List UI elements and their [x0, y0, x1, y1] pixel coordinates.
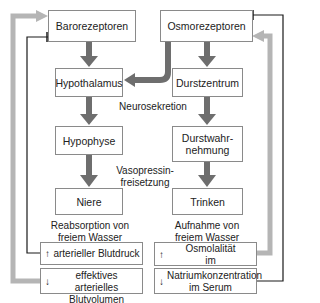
outcome-label: Natriumkonzentrationim Serum	[167, 270, 254, 294]
outcome-blutdruck: ↑ arterieller Blutdruck	[40, 242, 143, 265]
outcome-osmolalitaet: ↑ Osmolalitätim Extrazellularraum	[154, 242, 257, 266]
label-line: freisetzung	[100, 177, 190, 189]
node-barorezeptoren: Barorezeptoren	[48, 10, 136, 42]
label-line: Reabsorption von	[40, 220, 140, 232]
node-trinken: Trinken	[172, 188, 243, 215]
node-label: nehmung	[186, 144, 230, 156]
outcome-label: effektives arteriellesBlutvolumen	[53, 270, 140, 303]
node-label: Trinken	[190, 196, 225, 208]
label-reabsorption: Reabsorption vonfreiem Wasser	[40, 220, 140, 244]
node-label: Barorezeptoren	[56, 20, 128, 32]
outcome-blutvolumen: ↓ effektives arteriellesBlutvolumen	[40, 268, 143, 294]
node-durstwahrnehmung: Durstwahr-nehmung	[172, 126, 243, 162]
node-label: Hypothalamus	[55, 77, 122, 89]
node-durstzentrum: Durstzentrum	[172, 68, 243, 97]
label-neurosekretion: Neurosekretion	[108, 101, 198, 113]
node-label: Durstzentrum	[176, 77, 239, 89]
arrow-down-icon: ↓	[45, 276, 50, 288]
label-line: Aufnahme von	[157, 220, 257, 232]
node-label: Osmorezeptoren	[167, 20, 245, 32]
osmolality-feedback-arrow	[256, 36, 270, 253]
node-label: Niere	[76, 196, 101, 208]
node-hypothalamus: Hypothalamus	[55, 68, 123, 97]
label-vasopressin: Vasopressin-freisetzung	[100, 165, 190, 189]
outcome-label: arterieller Blutdruck	[53, 248, 140, 260]
arrow-up-icon: ↑	[159, 249, 164, 261]
node-niere: Niere	[55, 188, 123, 215]
node-hypophyse: Hypophyse	[55, 126, 123, 155]
node-label: Durstwahr-	[182, 132, 233, 144]
node-osmorezeptoren: Osmorezeptoren	[160, 10, 253, 42]
arrow-up-icon: ↑	[45, 248, 50, 260]
neurosekretion-arrow	[134, 42, 168, 80]
label-line: Vasopressin-	[100, 165, 190, 177]
outcome-natrium: ↓ Natriumkonzentrationim Serum	[154, 268, 257, 294]
arrow-down-icon: ↓	[159, 276, 164, 288]
node-label: Hypophyse	[63, 135, 116, 147]
label-aufnahme: Aufnahme vonfreiem Wasser	[157, 220, 257, 244]
